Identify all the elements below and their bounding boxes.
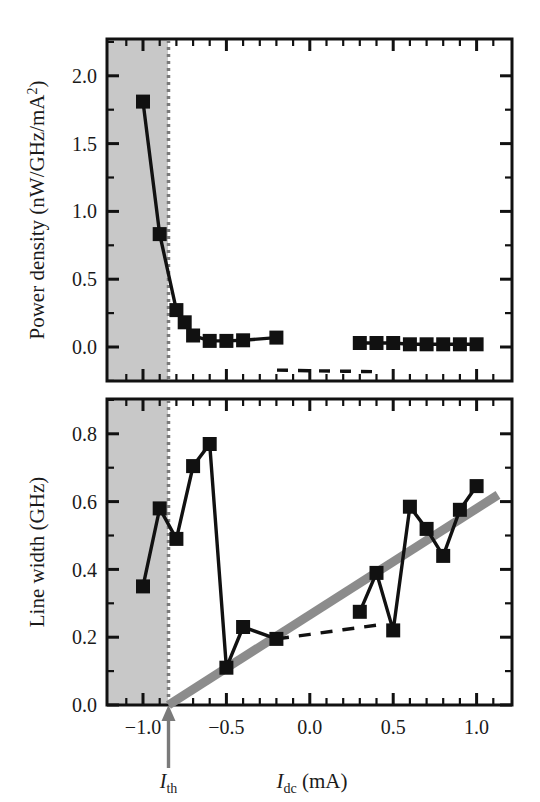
x-tick-label-1: −0.5 <box>208 716 244 738</box>
bottom-panel-marker <box>203 437 217 451</box>
top-panel-ytick-4: 2.0 <box>72 65 97 87</box>
top-panel-marker <box>436 337 450 351</box>
top-panel-marker <box>420 337 434 351</box>
top-panel-marker <box>178 315 192 329</box>
bottom-panel-marker <box>436 549 450 563</box>
bottom-panel-shaded-region <box>107 399 168 705</box>
bottom-panel-marker <box>353 605 367 619</box>
bottom-panel-marker <box>453 503 467 517</box>
x-axis-title-unit: (mA) <box>297 769 348 793</box>
top-panel-y-axis-title-sup: 2 <box>25 88 40 95</box>
top-panel-ytick-2: 1.0 <box>72 200 97 222</box>
top-panel-ytick-0: 0.0 <box>72 336 97 358</box>
x-axis-title-sub: dc <box>284 781 297 796</box>
bottom-panel-marker <box>236 620 250 634</box>
x-tick-label-3: 0.5 <box>381 716 406 738</box>
bottom-panel-ytick-2: 0.4 <box>72 559 97 581</box>
top-panel-marker <box>386 336 400 350</box>
bottom-panel-marker <box>420 522 434 536</box>
top-panel-marker <box>470 337 484 351</box>
top-panel-marker <box>136 95 150 109</box>
bottom-panel-ytick-0: 0.0 <box>72 694 97 716</box>
bottom-panel-ytick-3: 0.6 <box>72 491 97 513</box>
top-panel-y-axis-title-close: ) <box>25 81 49 88</box>
bottom-panel-marker <box>386 623 400 637</box>
bottom-panel-marker <box>153 501 167 515</box>
figure-container: 0.0 0.5 1.0 1.5 2.0 Power density (nW/GH… <box>0 0 540 802</box>
bottom-panel-marker <box>136 579 150 593</box>
top-panel-marker <box>186 329 200 343</box>
top-panel-ytick-1: 0.5 <box>72 268 97 290</box>
bottom-panel-marker <box>470 479 484 493</box>
bottom-panel-marker <box>403 500 417 514</box>
threshold-label-sub: th <box>166 781 177 796</box>
bottom-panel-marker <box>269 632 283 646</box>
top-panel-marker <box>153 227 167 241</box>
bottom-panel-y-axis-title: Line width (GHz) <box>25 477 49 627</box>
bottom-panel-ytick-1: 0.2 <box>72 626 97 648</box>
top-panel-ytick-3: 1.5 <box>72 133 97 155</box>
bottom-panel-marker <box>370 566 384 580</box>
bottom-panel-marker <box>186 459 200 473</box>
top-panel-marker <box>169 303 183 317</box>
top-panel-marker <box>269 331 283 345</box>
x-tick-label-4: 1.0 <box>464 716 489 738</box>
bottom-panel-ytick-4: 0.8 <box>72 423 97 445</box>
top-panel-y-axis-title: Power density (nW/GHz/mA2) <box>25 81 49 340</box>
bottom-panel-marker <box>219 661 233 675</box>
bottom-panel-marker <box>169 532 183 546</box>
top-panel-y-axis-title-main: Power density (nW/GHz/mA <box>25 94 49 340</box>
top-panel-marker <box>403 337 417 351</box>
top-panel-marker <box>353 336 367 350</box>
top-panel-marker <box>370 336 384 350</box>
top-panel-marker <box>203 334 217 348</box>
x-tick-label-2: 0.0 <box>297 716 322 738</box>
top-panel-marker <box>453 337 467 351</box>
two-panel-figure: 0.0 0.5 1.0 1.5 2.0 Power density (nW/GH… <box>0 0 540 802</box>
top-panel-marker <box>236 333 250 347</box>
x-tick-label-0: −1.0 <box>125 716 161 738</box>
top-panel-marker <box>219 334 233 348</box>
